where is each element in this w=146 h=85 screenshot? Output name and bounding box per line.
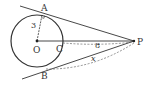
label-pb-length: x <box>91 54 96 63</box>
label-b: B <box>41 71 48 81</box>
label-a: A <box>40 3 48 13</box>
tangent-line-pa <box>20 6 134 41</box>
label-radius: 3 <box>31 21 36 30</box>
point-p <box>133 40 135 42</box>
tangent-diagram: A B O C P 3 8 x <box>0 0 146 85</box>
radius-oa <box>37 15 42 41</box>
label-c: C <box>56 44 63 54</box>
label-o: O <box>33 45 40 55</box>
label-p: P <box>137 37 143 47</box>
point-o <box>36 40 39 43</box>
label-cp-length: 8 <box>95 41 100 50</box>
